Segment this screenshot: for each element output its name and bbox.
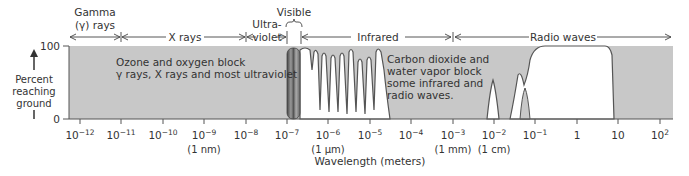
ozone-annotation: Ozone and oxygen block <box>116 56 246 68</box>
svg-text:10−12: 10−12 <box>65 128 94 141</box>
svg-text:(1 µm): (1 µm) <box>311 144 345 155</box>
svg-text:102: 102 <box>651 128 669 141</box>
svg-text:(1 mm): (1 mm) <box>435 144 472 155</box>
svg-text:(1 nm): (1 nm) <box>187 144 221 155</box>
svg-text:10−10: 10−10 <box>148 128 177 141</box>
svg-text:10−3: 10−3 <box>441 128 466 141</box>
x-axis-title: Wavelength (meters) <box>315 155 426 167</box>
co2-annotation: Carbon dioxide and <box>387 53 489 65</box>
svg-text:10−7: 10−7 <box>275 128 300 141</box>
svg-text:10−6: 10−6 <box>316 128 341 141</box>
band-xrays-label: X rays <box>169 31 202 43</box>
y-tick-0: 0 <box>53 113 60 125</box>
co2-annotation-2: water vapor block <box>387 65 482 77</box>
svg-text:10−4: 10−4 <box>399 128 424 141</box>
x-ticks <box>80 119 660 124</box>
svg-text:10−11: 10−11 <box>106 128 135 141</box>
svg-text:10−2: 10−2 <box>482 128 507 141</box>
visible-band <box>287 48 300 119</box>
svg-text:10−1: 10−1 <box>523 128 548 141</box>
svg-text:10−8: 10−8 <box>234 128 259 141</box>
atmospheric-transmission-chart: 100 0 Percent reaching ground 10−12 10−1… <box>0 0 689 176</box>
band-infrared-label: Infrared <box>357 31 398 43</box>
svg-text:Percent: Percent <box>15 74 53 85</box>
up-arrow-icon <box>30 49 38 57</box>
y-axis-title: Percent reaching ground <box>12 49 55 119</box>
svg-text:1: 1 <box>574 129 581 141</box>
band-uv-label-2: violet <box>252 31 281 43</box>
band-gamma-label: Gamma <box>74 6 115 18</box>
co2-annotation-4: radio waves. <box>387 89 454 101</box>
svg-text:reaching: reaching <box>12 86 55 97</box>
x-tick-notes: (1 nm) (1 µm) (1 mm) (1 cm) <box>187 144 510 155</box>
y-tick-100: 100 <box>40 40 60 52</box>
svg-text:10: 10 <box>611 129 624 141</box>
svg-text:ground: ground <box>16 98 51 109</box>
band-gamma-label-2: (γ) rays <box>75 19 115 31</box>
co2-annotation-3: some infrared and <box>387 77 483 89</box>
svg-text:10−9: 10−9 <box>192 128 217 141</box>
band-uv-label: Ultra- <box>252 18 281 30</box>
svg-text:(1 cm): (1 cm) <box>478 144 511 155</box>
band-radio-label: Radio waves <box>530 31 596 43</box>
ozone-annotation-2: γ rays, X rays and most ultraviolet <box>116 68 297 80</box>
band-visible-label: Visible <box>277 6 311 18</box>
x-tick-labels: 10−12 10−11 10−10 10−9 10−8 10−7 10−6 10… <box>65 128 669 141</box>
svg-text:10−5: 10−5 <box>358 128 383 141</box>
